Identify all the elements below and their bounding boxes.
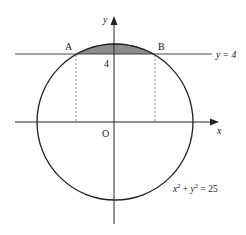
y-intercept-label: 4 xyxy=(104,58,109,69)
y-axis-arrow-icon xyxy=(111,16,118,25)
origin-label: O xyxy=(102,128,109,139)
diagram-svg: A B 4 O x y y = 4 x2 + y2 = 25 xyxy=(0,0,246,235)
eq-rhs: = 25 xyxy=(198,184,218,194)
line-label: y = 4 xyxy=(215,50,236,60)
point-b-label: B xyxy=(158,41,165,52)
y-axis-label: y xyxy=(102,14,108,25)
point-a-label: A xyxy=(65,41,73,52)
eq-plus: + xyxy=(180,184,190,194)
x-axis-label: x xyxy=(216,125,222,136)
circle-segment-diagram: A B 4 O x y y = 4 x2 + y2 = 25 xyxy=(0,0,246,235)
circle-equation-label: x2 + y2 = 25 xyxy=(172,182,218,194)
